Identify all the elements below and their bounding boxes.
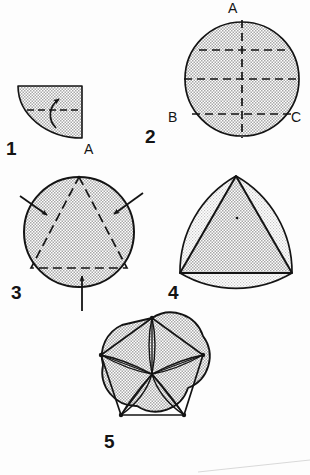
point-label-a-fig1: A	[84, 142, 93, 156]
figure-5-rosette	[99, 312, 210, 417]
fig3-circle-outline	[24, 177, 134, 287]
figure-canvas	[0, 0, 310, 475]
fig4-centre-dot	[236, 217, 239, 220]
figure-4-reuleaux	[180, 176, 292, 288]
point-label-b-fig2: B	[168, 110, 177, 124]
step-number-2: 2	[145, 127, 156, 146]
step-number-4: 4	[168, 283, 179, 302]
point-label-c-fig2: C	[291, 110, 301, 124]
step-number-5: 5	[104, 432, 115, 451]
scan-artifact-line	[198, 460, 310, 472]
step-number-1: 1	[6, 139, 17, 158]
diagram-page: 1 2 3 4 5 A A B C	[0, 0, 310, 475]
figure-3-circle-triangle	[20, 177, 143, 311]
point-label-a-fig2: A	[228, 1, 237, 15]
figure-1-quarter-wedge	[18, 86, 82, 138]
figure-2-circle	[184, 20, 300, 138]
step-number-3: 3	[11, 283, 22, 302]
